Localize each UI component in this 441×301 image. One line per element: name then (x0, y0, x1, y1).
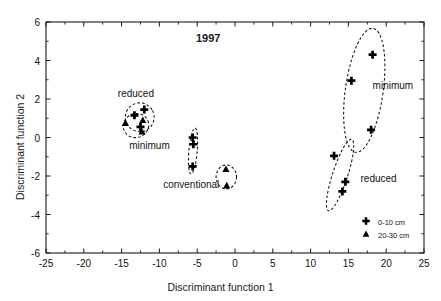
cluster-label-minimum: minimum (129, 140, 170, 151)
cluster-label-reduced: reduced (360, 173, 396, 184)
x-tick-label: 15 (343, 258, 354, 269)
plot-frame (46, 22, 424, 253)
cluster-label-reduced: reduced (118, 88, 154, 99)
confidence-ellipses (120, 26, 392, 213)
chart-title: 1997 (196, 32, 220, 44)
data-points (122, 51, 377, 196)
y-tick-label: 6 (22, 17, 40, 28)
y-tick-label: 0 (22, 132, 40, 143)
plot-canvas (0, 0, 441, 301)
x-tick-label: -25 (39, 258, 53, 269)
y-axis-title: Discriminant function 2 (14, 94, 26, 200)
x-tick-label: -15 (114, 258, 128, 269)
legend-markers (362, 217, 370, 237)
axis-ticks (46, 22, 424, 253)
x-axis-title: Discriminant function 1 (0, 281, 441, 293)
x-tick-label: -20 (77, 258, 91, 269)
x-tick-label: -5 (193, 258, 202, 269)
legend-label-0-10cm: 0-10 cm (378, 218, 405, 227)
y-tick-label: 2 (22, 94, 40, 105)
x-tick-label: 5 (270, 258, 276, 269)
legend-label-20-30cm: 20-30 cm (378, 231, 409, 240)
x-tick-label: 20 (381, 258, 392, 269)
y-tick-label: 4 (22, 55, 40, 66)
x-tick-label: -10 (152, 258, 166, 269)
cluster-label-conventional: conventional (163, 179, 219, 190)
x-tick-label: 25 (418, 258, 429, 269)
y-tick-label: -6 (22, 248, 40, 259)
cluster-label-minimum: minimum (373, 80, 414, 91)
y-tick-label: -4 (22, 209, 40, 220)
x-tick-label: 10 (305, 258, 316, 269)
discriminant-scatter-figure: 1997 Discriminant function 1 Discriminan… (0, 0, 441, 301)
y-tick-label: -2 (22, 171, 40, 182)
x-tick-label: 0 (232, 258, 238, 269)
